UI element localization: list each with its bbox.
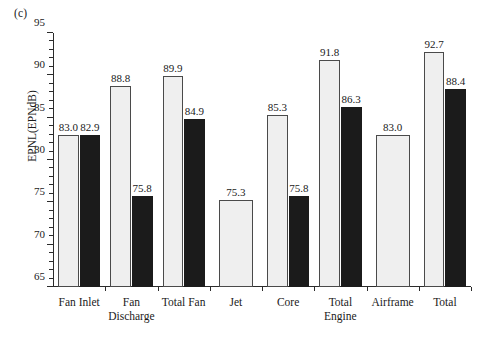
x-label-line2: Discharge [108,309,154,323]
bar-value-label: 89.9 [157,63,190,74]
y-tick-minor [49,252,53,253]
bar-value-label: 75.8 [283,183,316,194]
y-tick-major [47,159,53,160]
x-label-line2: Engine [324,309,357,323]
bar-value-label: 86.3 [335,94,368,105]
bar-value-label: 88.4 [439,76,472,87]
y-tick-label: 80 [34,144,45,155]
y-tick-minor [49,278,53,279]
y-tick-minor [49,193,53,194]
bar-dark [289,196,310,287]
bar-light [424,52,445,287]
y-tick-major [47,244,53,245]
x-tick [314,287,315,291]
x-axis-category-label: Total Fan [162,295,206,309]
bar-light [267,115,288,287]
y-tick-label: 65 [34,271,45,282]
y-tick-major [47,201,53,202]
bar-value-label: 82.9 [74,122,107,133]
y-tick-minor [49,49,53,50]
y-tick-minor [49,151,53,152]
y-tick-label: 90 [34,59,45,70]
y-tick-minor [49,142,53,143]
bar-value-label: 75.3 [213,187,259,198]
bar-dark [445,89,466,287]
bar-value-label: 83.0 [370,122,416,133]
x-axis-category-label: Airframe [372,295,414,309]
x-tick [419,287,420,291]
y-tick-major [47,286,53,287]
x-label-line1: Total [433,296,456,308]
bar-value-label: 91.8 [313,47,346,58]
x-tick [367,287,368,291]
bar-value-label: 88.8 [104,73,137,84]
y-tick-minor [49,66,53,67]
y-tick-label: 85 [34,101,45,112]
y-tick-minor [49,176,53,177]
x-axis-category-label: Total [433,295,456,309]
x-label-line1: Fan [123,296,140,308]
bar-value-label: 75.8 [126,183,159,194]
y-tick-minor [49,235,53,236]
bar-value-label: 84.9 [178,106,211,117]
x-tick [471,287,472,291]
bar-dark [132,196,153,287]
y-tick-minor [49,40,53,41]
bar-dark [80,135,101,287]
y-tick-minor [49,227,53,228]
x-axis-category-label: FanDischarge [108,295,154,324]
y-tick-label: 70 [34,228,45,239]
x-tick [158,287,159,291]
x-tick [262,287,263,291]
y-tick-minor [49,91,53,92]
x-tick [105,287,106,291]
bar-light [219,200,253,287]
y-tick-minor [49,83,53,84]
bar-dark [184,119,205,287]
figure-panel-c: (c) EPNL(EPNdB) 65707580859095 83.082.98… [0,0,489,339]
panel-letter: (c) [14,7,27,19]
bar-light [376,135,410,287]
x-label-line1: Core [277,296,299,308]
y-tick-minor [49,100,53,101]
y-tick-minor [49,184,53,185]
x-axis-category-label: Core [277,295,299,309]
x-label-line1: Total [329,296,352,308]
y-tick-minor [49,269,53,270]
y-tick-label: 95 [34,17,45,28]
bar-value-label: 92.7 [418,39,451,50]
x-tick [210,287,211,291]
y-axis-title: EPNL(EPNdB) [26,66,38,186]
x-axis-category-label: Fan Inlet [59,295,100,309]
plot-area: 65707580859095 83.082.988.875.889.984.97… [53,33,471,287]
y-tick-minor [49,108,53,109]
y-axis-line [53,33,54,287]
y-tick-major [47,74,53,75]
y-tick-minor [49,134,53,135]
y-tick-minor [49,57,53,58]
y-tick-minor [49,218,53,219]
y-tick-minor [49,210,53,211]
bar-value-label: 85.3 [261,102,294,113]
bar-light [58,135,79,287]
x-label-line1: Fan Inlet [59,296,100,308]
y-tick-label: 75 [34,186,45,197]
bar-dark [341,107,362,287]
y-tick-minor [49,261,53,262]
x-axis-category-label: TotalEngine [324,295,357,324]
y-tick-minor [49,167,53,168]
x-label-line1: Jet [229,296,242,308]
y-tick-major [47,117,53,118]
x-label-line1: Airframe [372,296,414,308]
x-label-line1: Total Fan [162,296,206,308]
x-axis-category-label: Jet [229,295,242,309]
y-tick-major [47,32,53,33]
